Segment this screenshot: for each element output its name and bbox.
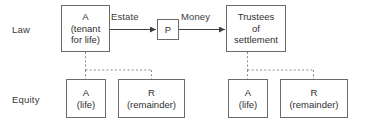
node-trustees-of-settlement: Trustees of settlement: [226, 5, 286, 52]
node-r-remainder-right: R (remainder): [280, 79, 348, 118]
node-r-remainder-right-line2: (remainder): [289, 99, 338, 111]
node-r-remainder-left-line1: R: [148, 87, 155, 99]
settlement-diagram: Law Equity Estate Money A (tenant for li…: [0, 0, 365, 124]
node-trustees-line3: settlement: [234, 34, 278, 46]
row-label-law: Law: [12, 24, 30, 35]
node-a-life-left: A (life): [66, 79, 106, 118]
node-p-line1: P: [165, 24, 171, 36]
node-a-life-right: A (life): [228, 79, 268, 118]
node-trustees-line2: of: [252, 23, 260, 35]
node-trustees-line1: Trustees: [238, 11, 275, 23]
node-a-tenant-line1: A: [82, 11, 88, 23]
node-a-tenant-for-life: A (tenant for life): [61, 5, 110, 52]
node-a-life-left-line2: (life): [77, 99, 95, 111]
row-label-equity: Equity: [12, 94, 40, 105]
node-a-life-left-line1: A: [83, 87, 89, 99]
node-p: P: [157, 19, 179, 40]
node-a-tenant-line2: (tenant: [71, 23, 101, 35]
node-r-remainder-right-line1: R: [311, 87, 318, 99]
edge-label-estate: Estate: [111, 11, 139, 22]
node-r-remainder-left-line2: (remainder): [127, 99, 176, 111]
edge-label-money: Money: [181, 11, 210, 22]
node-a-tenant-line3: for life): [71, 34, 100, 46]
node-r-remainder-left: R (remainder): [118, 79, 185, 118]
node-a-life-right-line2: (life): [239, 99, 257, 111]
node-a-life-right-line1: A: [245, 87, 251, 99]
